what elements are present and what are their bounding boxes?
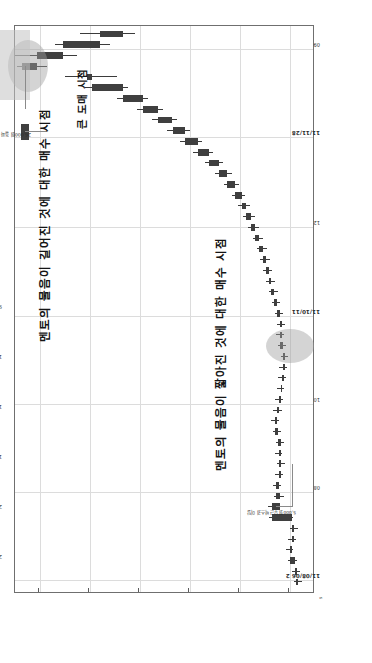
candle-body xyxy=(281,385,283,392)
grid-line-horizontal xyxy=(90,26,91,592)
annotation-warning-point: 멘토의 물음이 길어진 것에 대한 매수 시점 xyxy=(36,108,52,342)
candle-body xyxy=(274,299,277,306)
candle-body xyxy=(279,471,282,478)
candle-body xyxy=(123,95,143,102)
annotation-buy-point: 멘토의 물음이 짧아진 것에 대한 매수 시점 xyxy=(212,237,228,471)
highlight-ellipse-lower xyxy=(266,329,314,363)
candle-body xyxy=(259,246,263,253)
candle-body xyxy=(277,407,279,414)
date-tick-label: 11/11/28 xyxy=(292,130,320,136)
annotation-sell-point: 큰 도매 시점 xyxy=(74,68,89,129)
candle-body xyxy=(275,418,277,425)
candle-body xyxy=(278,439,280,446)
price-tick-label: 21,000 xyxy=(0,504,2,510)
candle-body xyxy=(143,106,158,113)
grid-line-vertical xyxy=(15,492,313,493)
date-tick-label: 08 xyxy=(313,485,320,491)
candle-body xyxy=(279,450,281,457)
candle-body xyxy=(198,149,209,156)
candle-body xyxy=(92,84,124,91)
candle-body xyxy=(246,213,251,220)
grid-line-vertical xyxy=(15,137,313,138)
grid-line-vertical xyxy=(15,49,313,50)
candle-body xyxy=(271,289,274,296)
candle-body xyxy=(227,181,235,188)
candle-body xyxy=(235,192,242,199)
corner-mark: s xyxy=(318,597,323,599)
price-tick xyxy=(288,588,289,592)
price-tick-label: 12,000 xyxy=(0,354,2,360)
chart-page: 3S s 24,00021,00018,00015,00012,0009,000… xyxy=(0,0,372,663)
candle-body xyxy=(292,525,294,532)
candle-body xyxy=(63,41,100,48)
candle-body xyxy=(219,170,227,177)
candle-body xyxy=(277,310,280,317)
date-tick-label: 09 xyxy=(313,42,320,48)
date-tick-label: 11/08/06 2 xyxy=(286,573,320,579)
candle-body xyxy=(185,138,198,145)
grid-line-vertical xyxy=(15,580,313,581)
price-tick xyxy=(188,588,189,592)
price-tick xyxy=(38,588,39,592)
note-price-breakout: 26,000원 돌파 2011/11/22 xyxy=(0,132,31,138)
candle-body xyxy=(100,31,123,38)
candle-body xyxy=(158,117,172,124)
candle-body xyxy=(296,579,298,586)
date-tick-label: 11/10/11 xyxy=(292,309,320,315)
candle-body xyxy=(251,224,255,231)
date-tick-label: 10 xyxy=(313,397,320,403)
candle-body xyxy=(266,267,269,274)
candle-body xyxy=(276,482,278,489)
price-tick-label: 15,000 xyxy=(0,404,2,410)
leader-line-lower xyxy=(292,464,293,507)
leader-line-breakout xyxy=(25,66,26,109)
leader-line-lower-vertical xyxy=(276,506,292,507)
price-tick-label: 9,000 xyxy=(0,304,2,310)
candle-body xyxy=(283,364,285,371)
candle-body xyxy=(280,321,282,328)
price-tick xyxy=(238,588,239,592)
candle-body xyxy=(255,235,259,242)
price-tick-label: 24,000 xyxy=(0,554,2,560)
price-tick xyxy=(88,588,89,592)
grid-line-vertical xyxy=(15,227,313,228)
grid-line-vertical xyxy=(15,316,313,317)
candlestick-plot-area[interactable] xyxy=(14,25,314,593)
price-tick xyxy=(138,588,139,592)
grid-line-horizontal xyxy=(140,26,141,592)
grid-line-horizontal xyxy=(190,26,191,592)
candle-body xyxy=(242,203,247,210)
candle-body xyxy=(292,536,294,543)
grid-line-vertical xyxy=(15,404,313,405)
date-tick-label: 12 xyxy=(313,220,320,226)
price-tick-label: 18,000 xyxy=(0,454,2,460)
candle-body xyxy=(209,160,219,167)
candle-body xyxy=(290,557,295,564)
note-lower-box: 5,000원 부근 박스권 이탈 xyxy=(247,510,296,516)
candle-body xyxy=(269,278,272,285)
candle-body xyxy=(279,460,281,467)
candle-body xyxy=(173,127,186,134)
candle-body xyxy=(279,396,281,403)
candle-body xyxy=(263,256,266,263)
grid-line-horizontal xyxy=(240,26,241,592)
candle-body xyxy=(282,375,284,382)
candle-body xyxy=(290,546,292,553)
candle-body xyxy=(275,428,278,435)
candle-body xyxy=(276,493,280,500)
rotated-chart-canvas: s 24,00021,00018,00015,00012,0009,000 11… xyxy=(0,0,352,645)
